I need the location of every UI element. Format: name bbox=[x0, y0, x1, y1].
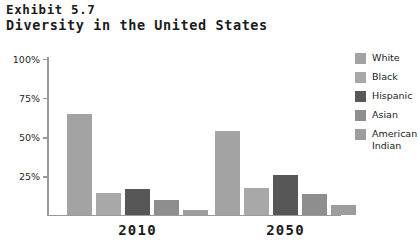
bar bbox=[67, 114, 92, 214]
bar bbox=[302, 194, 327, 214]
legend-swatch-icon bbox=[355, 91, 366, 102]
legend-label: Hispanic bbox=[372, 90, 412, 102]
legend-label: White bbox=[372, 52, 400, 64]
legend-item: American Indian bbox=[355, 128, 419, 151]
x-axis-label-2050: 2050 bbox=[266, 222, 305, 238]
legend-swatch-icon bbox=[355, 129, 366, 140]
plot-area: 100%75%50%25% bbox=[47, 57, 341, 216]
y-axis-tick-label: 25% bbox=[19, 171, 40, 182]
legend-swatch-icon bbox=[355, 72, 366, 83]
y-axis-tick-label: 50% bbox=[19, 132, 40, 143]
bar bbox=[244, 188, 269, 215]
bar bbox=[331, 205, 356, 214]
x-axis-label-2010: 2010 bbox=[118, 222, 157, 238]
exhibit-chart: Exhibit 5.7 Diversity in the United Stat… bbox=[0, 0, 420, 249]
bar bbox=[125, 189, 150, 214]
x-axis-line bbox=[47, 215, 341, 217]
bar bbox=[183, 210, 208, 215]
bar bbox=[215, 131, 240, 214]
legend-label: Asian bbox=[372, 109, 398, 121]
bar-series-container bbox=[47, 58, 341, 215]
bar bbox=[273, 175, 298, 214]
legend-label: American Indian bbox=[372, 128, 417, 151]
legend-item: Asian bbox=[355, 109, 419, 121]
legend-item: Black bbox=[355, 71, 419, 83]
y-axis-tick-label: 75% bbox=[19, 92, 40, 103]
bar bbox=[96, 193, 121, 215]
legend-item: White bbox=[355, 52, 419, 64]
legend-item: Hispanic bbox=[355, 90, 419, 102]
bar bbox=[154, 200, 179, 214]
legend-swatch-icon bbox=[355, 53, 366, 64]
page-title: Diversity in the United States bbox=[6, 17, 346, 34]
legend-swatch-icon bbox=[355, 110, 366, 121]
y-axis-tick-label: 100% bbox=[13, 53, 40, 64]
legend-label: Black bbox=[372, 71, 398, 83]
title-block: Exhibit 5.7 Diversity in the United Stat… bbox=[6, 2, 346, 34]
exhibit-number: Exhibit 5.7 bbox=[6, 2, 346, 17]
legend: WhiteBlackHispanicAsianAmerican Indian bbox=[355, 52, 419, 158]
